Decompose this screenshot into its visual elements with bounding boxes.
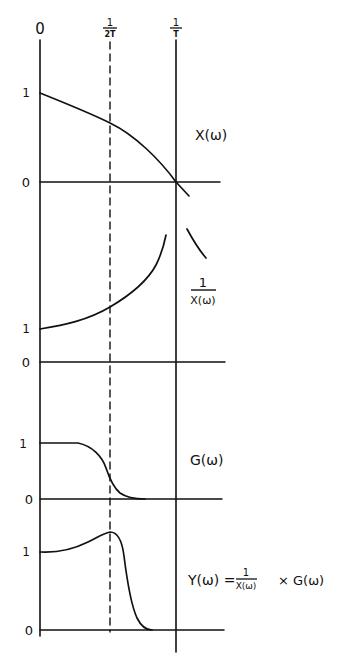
y-one-label: 1 <box>19 437 27 451</box>
svg-text:X(ω): X(ω) <box>190 294 215 307</box>
y-zero-label: 0 <box>25 492 33 507</box>
inverse-x-curve <box>40 235 166 329</box>
g-curve-label: G(ω) <box>190 452 224 468</box>
y-zero-label: 0 <box>22 175 30 190</box>
svg-text:2T: 2T <box>104 30 116 39</box>
y-equation-fraction-denominator: X(ω) <box>236 581 257 591</box>
y-zero-label: 0 <box>25 623 33 638</box>
panel-g: 1 0 G(ω) <box>19 437 223 507</box>
inverse-x-label: 1 X(ω) <box>190 275 216 307</box>
svg-text:1: 1 <box>199 275 207 290</box>
y-equation-lhs: Y(ω) = <box>187 572 235 588</box>
svg-text:T: T <box>173 30 179 39</box>
y-zero-label: 0 <box>22 355 30 370</box>
frequency-response-diagram: 0 1 2T 1 T 1 0 X(ω) 1 0 1 X(ω) <box>0 0 346 669</box>
y-equation-label: Y(ω) = 1 X(ω) × G(ω) <box>187 567 324 591</box>
inverse-x-curve-right-branch <box>187 229 206 258</box>
frequency-label: 1 T <box>170 17 182 39</box>
y-equation-rhs: × G(ω) <box>278 573 324 588</box>
svg-text:1: 1 <box>107 17 113 28</box>
panel-inverse-x: 1 0 1 X(ω) <box>22 229 225 370</box>
panel-x: 1 0 X(ω) <box>22 86 227 196</box>
y-one-label: 1 <box>22 545 30 559</box>
y-one-label: 1 <box>22 322 30 336</box>
top-axis-labels: 0 1 2T 1 T <box>35 17 182 39</box>
g-curve <box>40 443 145 499</box>
origin-label: 0 <box>35 20 45 38</box>
panel-y: 1 0 Y(ω) = 1 X(ω) × G(ω) <box>22 532 324 638</box>
x-curve-label: X(ω) <box>195 127 227 143</box>
y-one-label: 1 <box>22 86 30 100</box>
y-equation-fraction-numerator: 1 <box>243 567 249 578</box>
y-curve <box>40 532 152 630</box>
svg-text:1: 1 <box>173 17 179 28</box>
x-curve <box>40 93 189 196</box>
half-frequency-label: 1 2T <box>103 17 117 39</box>
